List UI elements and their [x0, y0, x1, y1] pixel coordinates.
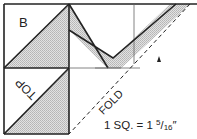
- shaded-band-fill: [69, 4, 190, 68]
- v-band-outer-edge: [69, 4, 108, 68]
- scale-denominator: 16: [164, 123, 173, 132]
- scale-unit: ″: [173, 119, 177, 131]
- fold-line: [69, 4, 190, 134]
- scale-prefix: 1 SQ. = 1: [104, 119, 153, 131]
- scale-note: 1 SQ. = 1 5/16″: [104, 118, 177, 132]
- piece-label-b: B: [19, 15, 28, 30]
- arrow-up-icon: [157, 56, 161, 62]
